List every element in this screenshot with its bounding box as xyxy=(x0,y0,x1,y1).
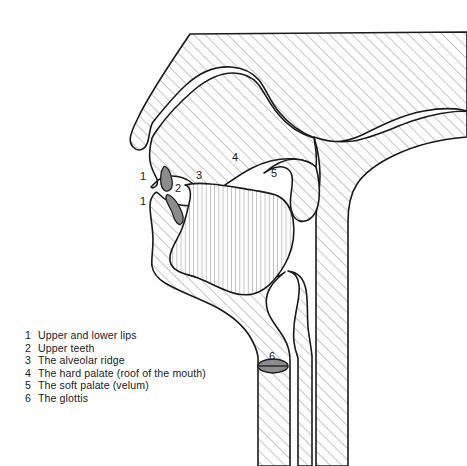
legend-item-label: The soft palate (velum) xyxy=(38,379,149,392)
diagram-callout-1-lower-lip: 1 xyxy=(140,196,146,207)
diagram-callout-6-glottis: 6 xyxy=(269,351,275,362)
legend-item: 2 Upper teeth xyxy=(25,342,255,355)
legend-item-label: The alveolar ridge xyxy=(38,354,125,367)
diagram-callout-1-upper-lip: 1 xyxy=(140,171,146,182)
diagram-callout-2-upper-teeth: 2 xyxy=(175,183,181,194)
posterior-pharyngeal-wall-tissue xyxy=(314,111,467,466)
legend-item: 5 The soft palate (velum) xyxy=(25,379,255,392)
legend-item-label: The hard palate (roof of the mouth) xyxy=(38,367,206,380)
legend-item-label: Upper and lower lips xyxy=(38,329,137,342)
legend-item-number: 1 xyxy=(25,329,38,342)
legend-item-label: The glottis xyxy=(38,392,88,405)
legend-item-number: 6 xyxy=(25,392,38,405)
legend-item: 1 Upper and lower lips xyxy=(25,329,255,342)
legend-item-number: 5 xyxy=(25,379,38,392)
legend-item-label: Upper teeth xyxy=(38,342,95,355)
legend-item-number: 4 xyxy=(25,367,38,380)
legend-item: 4 The hard palate (roof of the mouth) xyxy=(25,367,255,380)
legend-item-number: 2 xyxy=(25,342,38,355)
diagram-callout-5-soft-palate: 5 xyxy=(271,168,277,179)
diagram-callout-3-alveolar-ridge: 3 xyxy=(196,170,202,181)
legend: 1 Upper and lower lips 2 Upper teeth 3 T… xyxy=(25,329,255,405)
legend-item: 3 The alveolar ridge xyxy=(25,354,255,367)
legend-item-number: 3 xyxy=(25,354,38,367)
diagram-page: 1 2 1 3 4 5 6 1 Upper and lower lips 2 U… xyxy=(0,0,467,466)
diagram-callout-4-hard-palate: 4 xyxy=(232,152,238,163)
legend-item: 6 The glottis xyxy=(25,392,255,405)
epiglottis-tissue xyxy=(288,271,312,466)
